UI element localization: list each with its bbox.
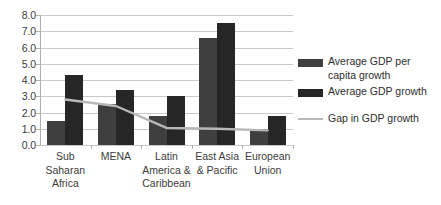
x-axis-tick-mark bbox=[293, 145, 294, 149]
y-axis-tick-label: 2.0 bbox=[2, 107, 36, 118]
x-axis-category-labels: Sub Saharan AfricaMENALatin America & Ca… bbox=[40, 150, 293, 200]
y-axis-tick-label: 8.0 bbox=[2, 10, 36, 21]
x-axis-tick-mark bbox=[242, 145, 243, 149]
legend-label-gap-in-gdp-growth: Gap in GDP growth bbox=[328, 112, 419, 126]
y-axis-tick-labels: 8.07.06.05.04.03.02.01.00.0 bbox=[0, 0, 36, 205]
legend-item-gdp-per-capita: Average GDP per capita growth bbox=[298, 55, 441, 82]
x-axis-category-label: Latin America & Caribbean bbox=[141, 150, 192, 191]
legend-swatch-icon-gdp-growth bbox=[298, 89, 323, 97]
legend-label-gdp-growth: Average GDP growth bbox=[328, 85, 427, 99]
x-axis-category-label: Sub Saharan Africa bbox=[40, 150, 91, 191]
y-axis-tick-mark bbox=[36, 145, 40, 146]
y-axis-tick-label: 0.0 bbox=[2, 140, 36, 151]
y-axis-tick-label: 3.0 bbox=[2, 91, 36, 102]
plot-area bbox=[40, 15, 293, 145]
x-axis-category-label: MENA bbox=[91, 150, 142, 164]
x-axis-tick-mark bbox=[91, 145, 92, 149]
gap-line-path bbox=[65, 100, 267, 131]
gridline bbox=[40, 145, 293, 146]
legend-swatch-icon-gap-line bbox=[298, 118, 323, 120]
y-axis-tick-label: 4.0 bbox=[2, 75, 36, 86]
gdp-growth-combo-chart: 8.07.06.05.04.03.02.01.00.0 Sub Saharan … bbox=[0, 0, 441, 205]
x-axis-tick-mark bbox=[141, 145, 142, 149]
x-axis-tick-mark bbox=[192, 145, 193, 149]
legend-swatch-icon-gdp-per-capita bbox=[298, 59, 323, 67]
legend-item-gap-in-gdp-growth: Gap in GDP growth bbox=[298, 112, 441, 126]
legend-label-gdp-per-capita: Average GDP per capita growth bbox=[328, 55, 441, 82]
y-axis-tick-label: 5.0 bbox=[2, 59, 36, 70]
gap-line-series bbox=[40, 15, 293, 145]
x-axis-category-label: East Asia & Pacific bbox=[192, 150, 243, 177]
y-axis-tick-label: 1.0 bbox=[2, 124, 36, 135]
chart-legend: Average GDP per capita growth Average GD… bbox=[298, 55, 441, 128]
y-axis-tick-label: 6.0 bbox=[2, 42, 36, 53]
y-axis-tick-label: 7.0 bbox=[2, 26, 36, 37]
legend-item-gdp-growth: Average GDP growth bbox=[298, 85, 441, 99]
x-axis-category-label: European Union bbox=[242, 150, 293, 177]
